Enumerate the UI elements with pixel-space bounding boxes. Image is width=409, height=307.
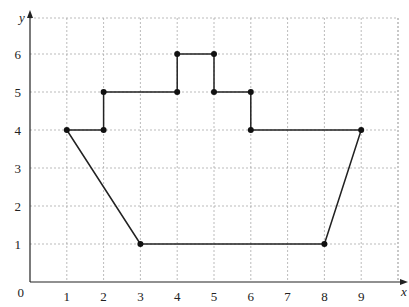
y-tick-label: 1 <box>15 237 22 252</box>
y-axis-label: y <box>17 10 25 25</box>
vertex-point <box>321 241 327 247</box>
x-tick-label: 1 <box>64 289 71 304</box>
y-tick-label: 4 <box>15 123 22 138</box>
x-axis-label: x <box>400 284 407 299</box>
x-tick-label: 3 <box>137 289 144 304</box>
origin-label: 0 <box>18 285 25 300</box>
y-tick-label: 3 <box>15 161 22 176</box>
x-tick-label: 5 <box>211 289 218 304</box>
x-tick-label: 6 <box>248 289 255 304</box>
y-axis-arrow-icon <box>27 10 33 18</box>
vertex-point <box>101 89 107 95</box>
vertex-point <box>137 241 143 247</box>
vertex-point <box>174 51 180 57</box>
coordinate-diagram: 1234567891234560xy <box>0 0 409 307</box>
vertex-point <box>174 89 180 95</box>
vertex-point <box>101 127 107 133</box>
vertex-point <box>211 51 217 57</box>
vertex-point <box>211 89 217 95</box>
y-tick-label: 2 <box>15 199 22 214</box>
y-tick-label: 6 <box>15 47 22 62</box>
x-tick-label: 7 <box>284 289 291 304</box>
boat-polygon <box>64 51 364 247</box>
y-tick-label: 5 <box>15 85 22 100</box>
x-tick-label: 4 <box>174 289 181 304</box>
vertex-point <box>64 127 70 133</box>
vertex-point <box>248 127 254 133</box>
x-tick-label: 2 <box>100 289 107 304</box>
vertex-point <box>248 89 254 95</box>
x-tick-label: 9 <box>358 289 365 304</box>
x-tick-label: 8 <box>321 289 328 304</box>
vertex-point <box>358 127 364 133</box>
